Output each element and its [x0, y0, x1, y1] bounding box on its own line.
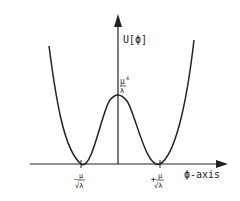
y-axis-label: U[ϕ] [123, 34, 147, 45]
y-axis-arrow-icon [114, 14, 122, 27]
peak-label-denominator: λ [120, 87, 124, 95]
left-minimum-denominator: √λ [75, 182, 83, 190]
potential-diagram: U[ϕ] ϕ-axis μ 4 λ - μ √λ + μ √λ [0, 0, 240, 201]
peak-label-numerator: μ [120, 77, 125, 86]
peak-label: μ 4 λ [120, 75, 129, 95]
right-minimum-numerator: μ [158, 172, 163, 180]
left-minimum-label: - μ √λ [73, 172, 85, 190]
x-axis-label: ϕ-axis [184, 169, 220, 180]
right-minimum-denominator: √λ [154, 182, 162, 190]
left-minimum-numerator: μ [79, 172, 84, 180]
x-axis-arrow-icon [216, 160, 228, 168]
peak-label-exponent: 4 [126, 75, 129, 81]
potential-curve [49, 40, 194, 165]
right-minimum-label: + μ √λ [151, 172, 164, 190]
